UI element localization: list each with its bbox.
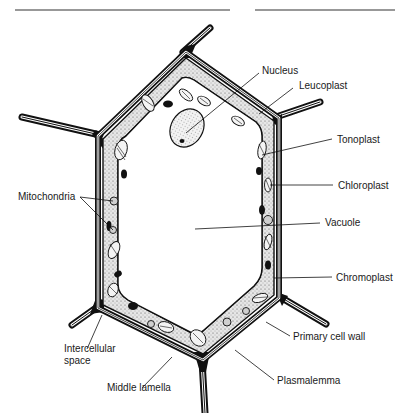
label-intercellular-space-line1: Intercellular <box>64 343 116 354</box>
label-mitochondria: Mitochondria <box>18 191 75 202</box>
label-tonoplast: Tonoplast <box>337 134 380 145</box>
label-plasmalemma: Plasmalemma <box>277 375 340 386</box>
label-nucleus: Nucleus <box>262 65 298 76</box>
label-chromoplast: Chromoplast <box>336 272 393 283</box>
label-intercellular-space-line2: space <box>64 355 91 366</box>
cell-drawing <box>0 0 411 413</box>
label-primary-cell-wall: Primary cell wall <box>293 331 365 342</box>
label-vacuole: Vacuole <box>325 217 360 228</box>
label-middle-lamella: Middle lamella <box>107 382 171 393</box>
label-chloroplast: Chloroplast <box>338 180 389 191</box>
label-leucoplast: Leucoplast <box>299 80 347 91</box>
plant-cell-diagram: Nucleus Leucoplast Tonoplast Chloroplast… <box>0 0 411 413</box>
